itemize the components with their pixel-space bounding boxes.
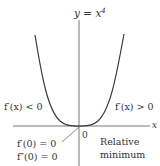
pointer-line <box>62 127 79 142</box>
minimum-label: minimum <box>100 149 145 160</box>
x-axis-label: x <box>152 120 157 130</box>
first-derivative-label: f′(0) = 0 <box>17 138 56 149</box>
relative-label: Relative <box>100 136 140 147</box>
second-derivative-label: f″(0) = 0 <box>17 151 58 162</box>
curve-x4 <box>35 34 124 126</box>
graph-title: y = x4 <box>73 7 106 19</box>
right-slope-label: f′(x) > 0 <box>115 101 154 112</box>
left-slope-label: f′(x) < 0 <box>4 101 43 112</box>
origin-label: 0 <box>82 130 88 140</box>
diagram-canvas: y = x4 x 0 f′(x) < 0 f′(x) > 0 f′(0) = 0… <box>0 0 160 166</box>
